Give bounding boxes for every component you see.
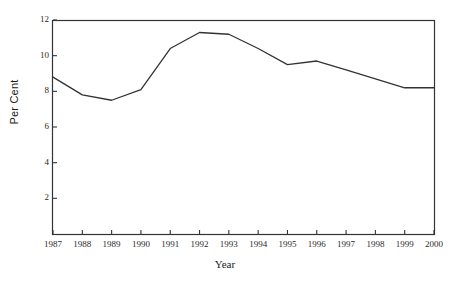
x-axis-ticks <box>53 230 434 234</box>
y-tick-label: 8 <box>23 86 49 95</box>
line-chart: Per Cent Year 24681012 19871988198919901… <box>0 0 450 282</box>
y-tick-label: 10 <box>23 51 49 60</box>
y-tick-label: 2 <box>23 193 49 202</box>
y-tick-label: 6 <box>23 122 49 131</box>
y-axis-ticks <box>53 20 57 198</box>
y-tick-label: 4 <box>23 158 49 167</box>
plot-frame <box>53 21 435 235</box>
x-tick-label: 2000 <box>417 239 450 249</box>
y-tick-label: 12 <box>23 15 49 24</box>
data-series-line <box>53 32 434 100</box>
